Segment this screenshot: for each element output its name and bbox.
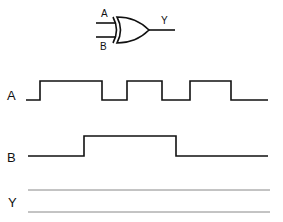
waveform-label-b: B <box>7 150 16 165</box>
gate-label-a: A <box>101 8 108 19</box>
gate-label-y: Y <box>161 15 168 26</box>
waveform-a <box>26 81 268 100</box>
xor-timing-diagram: A B Y A B Y <box>0 0 283 222</box>
waveform-label-y: Y <box>8 195 17 210</box>
or-gate-body <box>117 17 149 43</box>
waveform-b <box>28 136 268 156</box>
waveform-label-a: A <box>7 88 16 103</box>
gate-label-b: B <box>100 41 107 52</box>
xor-extra-curve <box>113 17 117 43</box>
